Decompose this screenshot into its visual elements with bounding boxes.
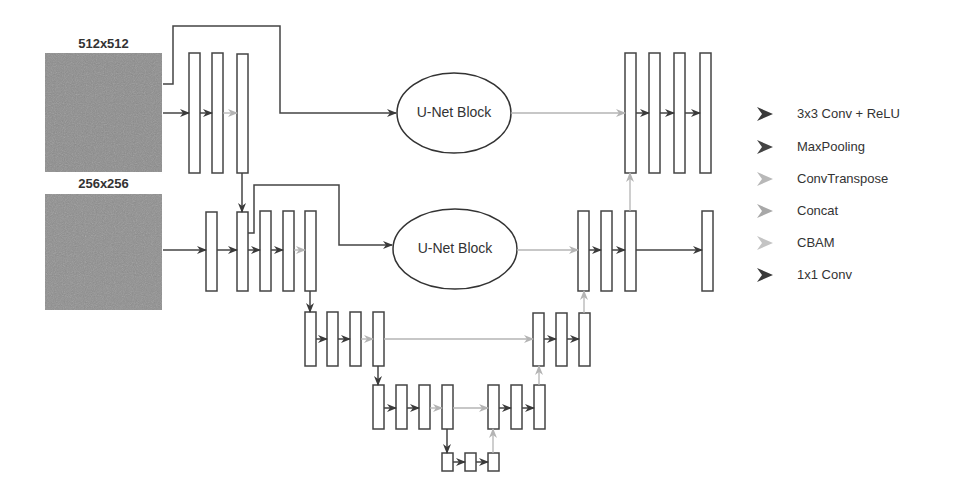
legend-item-conv1x1: 1x1 Conv — [797, 267, 852, 282]
input-image-512 — [45, 53, 162, 172]
feature-map — [260, 211, 271, 291]
output-map — [702, 211, 713, 291]
arrow-dark-icon — [757, 107, 773, 121]
feature-map — [212, 53, 223, 173]
input-label-256: 256x256 — [45, 176, 162, 191]
bottleneck-map — [488, 453, 499, 471]
legend-item-convtranspose: ConvTranspose — [797, 171, 888, 186]
bottleneck-map — [442, 453, 453, 471]
feature-map — [625, 211, 636, 291]
legend-item-maxpooling: MaxPooling — [797, 139, 865, 154]
bottleneck-map — [465, 453, 476, 471]
feature-map — [237, 212, 248, 291]
feature-map — [327, 312, 338, 366]
feature-map — [189, 53, 200, 173]
feature-map — [396, 385, 407, 429]
unet-block-label: U-Net Block — [397, 104, 511, 120]
feature-map — [649, 53, 660, 173]
feature-map — [579, 313, 590, 366]
arrow-dark-icon — [757, 140, 773, 154]
feature-map — [556, 313, 567, 366]
feature-map — [206, 212, 217, 291]
feature-map — [533, 313, 544, 366]
unet-block-label: U-Net Block — [393, 240, 517, 256]
legend-item-conv-relu: 3x3 Conv + ReLU — [797, 106, 900, 121]
arrow-light-icon — [757, 204, 773, 218]
feature-map — [534, 385, 545, 429]
feature-map — [237, 54, 248, 173]
feature-map — [419, 385, 430, 429]
feature-map — [700, 53, 711, 173]
legend-icons — [757, 107, 773, 282]
feature-map — [373, 312, 384, 366]
feature-map — [350, 312, 361, 366]
feature-map — [674, 53, 685, 173]
feature-map — [283, 211, 294, 291]
input-label-512: 512x512 — [45, 36, 162, 51]
feature-map — [305, 312, 316, 366]
feature-map — [488, 385, 499, 429]
arrow-dark-icon — [757, 268, 773, 282]
arrow-light-icon — [757, 172, 773, 186]
feature-map — [373, 385, 384, 429]
feature-map — [601, 211, 612, 291]
legend-item-cbam: CBAM — [797, 235, 835, 250]
legend-item-concat: Concat — [797, 203, 838, 218]
arrow-light-icon — [757, 236, 773, 250]
feature-map — [511, 385, 522, 429]
feature-map — [578, 211, 589, 291]
feature-map — [305, 211, 316, 291]
input-image-256 — [45, 194, 162, 310]
feature-map — [442, 385, 453, 429]
feature-map — [625, 53, 636, 173]
